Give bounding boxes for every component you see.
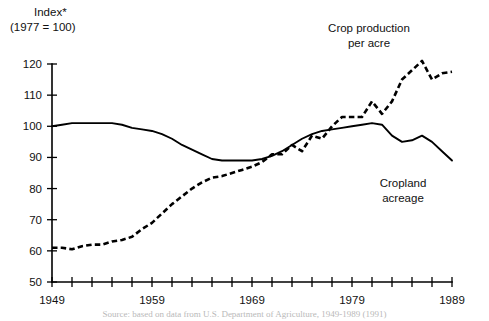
label-cropland-line1: Cropland [380,177,427,189]
y-axis-unit-line1: Index* [34,6,67,18]
y-tick-label: 90 [29,151,42,163]
x-tick-label: 1979 [339,294,365,306]
series-crop-production-per-acre [52,61,452,249]
y-axis-unit-line2: (1977 = 100) [10,21,76,33]
source-footnote: Source: based on data from U.S. Departme… [0,309,489,321]
series-cropland-acreage [52,123,452,160]
y-tick-label: 100 [23,120,42,132]
y-tick-label: 60 [29,245,42,257]
y-tick-label: 70 [29,214,42,226]
chart-container: Index* (1977 = 100) 5060708090100110120 … [0,0,489,321]
crop-index-line-chart: Index* (1977 = 100) 5060708090100110120 … [0,0,489,321]
y-tick-label: 50 [29,276,42,288]
label-crop-production-line2: per acre [348,37,390,49]
x-tick-label: 1949 [39,294,65,306]
y-tick-label: 120 [23,58,42,70]
y-tick-label: 80 [29,183,42,195]
x-tick-label: 1989 [439,294,465,306]
x-tick-label: 1959 [139,294,165,306]
x-tick-label: 1969 [239,294,265,306]
y-tick-label: 110 [24,89,42,101]
label-cropland-line2: acreage [382,192,424,204]
label-crop-production-line1: Crop production [328,22,410,34]
